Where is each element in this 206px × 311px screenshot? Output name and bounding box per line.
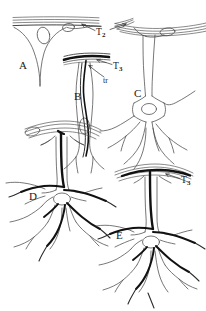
annotation-t3b-base: T — [113, 61, 119, 71]
panel-label-d: D — [29, 191, 37, 202]
figure-drawing — [0, 0, 206, 311]
annotation-t3e-subscript: 3 — [187, 179, 191, 187]
annotation-label-t3-panel-e: T3 — [181, 176, 190, 186]
figure-plate: A B C D E T2 T3 tr T3 — [0, 0, 206, 311]
annotation-label-t2: T2 — [96, 28, 105, 38]
annotation-t2-subscript: 2 — [102, 31, 106, 39]
panel-label-a: A — [19, 60, 27, 71]
panel-label-e: E — [116, 230, 123, 241]
panel-label-c: C — [134, 88, 142, 99]
annotation-t3b-subscript: 3 — [119, 65, 123, 73]
annotation-t3e-base: T — [181, 175, 187, 185]
annotation-label-tr: tr — [103, 77, 108, 85]
panel-label-b: B — [74, 91, 82, 102]
annotation-label-t3-panel-b: T3 — [113, 62, 122, 72]
annotation-t2-base: T — [96, 27, 102, 37]
